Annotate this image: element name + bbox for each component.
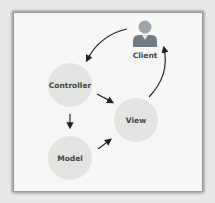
mvc-diagram: Client Controller View Model — [0, 0, 215, 203]
model-label: Model — [57, 154, 83, 163]
controller-node: Controller — [48, 63, 92, 107]
client-user-icon — [133, 21, 157, 48]
model-node: Model — [48, 136, 92, 180]
controller-label: Controller — [49, 81, 92, 90]
view-node: View — [114, 98, 158, 142]
arrow-controller-to-view — [97, 94, 112, 102]
client-label: Client — [133, 51, 158, 60]
arrow-client-to-controller — [87, 29, 127, 60]
view-label: View — [126, 116, 146, 125]
arrow-model-to-view — [98, 140, 110, 149]
